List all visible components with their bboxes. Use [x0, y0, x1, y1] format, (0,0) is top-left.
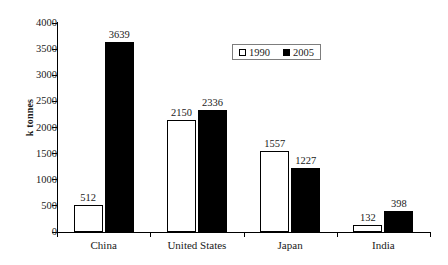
- bar-value-label: 1557: [252, 138, 297, 149]
- y-tick-label: 1500: [11, 149, 57, 160]
- chart-legend: 1990 2005: [232, 44, 321, 60]
- bar-united-states-1990: [167, 120, 196, 232]
- x-tick-mark: [57, 232, 58, 237]
- bar-chart: k tonnes 0500100015002000250030003500400…: [0, 0, 448, 265]
- y-tick-label: 2000: [11, 123, 57, 134]
- x-category-label-india: India: [337, 238, 430, 252]
- bar-value-label: 398: [376, 198, 421, 209]
- legend-entry-2005: 2005: [283, 47, 314, 58]
- y-tick-label: 500: [11, 201, 57, 212]
- bar-india-1990: [353, 225, 382, 232]
- x-category-label-china: China: [57, 238, 150, 252]
- bar-japan-2005: [291, 168, 320, 232]
- x-tick-mark: [150, 232, 151, 237]
- legend-entry-1990: 1990: [239, 47, 270, 58]
- y-tick-label: 0: [11, 227, 57, 238]
- legend-label-2005: 2005: [293, 47, 314, 58]
- bar-value-label: 3639: [97, 29, 142, 40]
- y-tick-label: 3000: [11, 70, 57, 81]
- bar-india-2005: [384, 211, 413, 232]
- x-category-label-japan: Japan: [244, 238, 337, 252]
- bar-china-1990: [74, 205, 103, 232]
- y-tick-label: 4000: [11, 18, 57, 29]
- legend-swatch-filled-square-icon: [283, 49, 290, 56]
- bar-value-label: 1227: [283, 155, 328, 166]
- x-tick-mark: [244, 232, 245, 237]
- bar-value-label: 2336: [190, 97, 235, 108]
- legend-label-1990: 1990: [249, 47, 270, 58]
- legend-swatch-open-square-icon: [239, 49, 246, 56]
- y-tick-label: 2500: [11, 96, 57, 107]
- y-tick-label: 1000: [11, 175, 57, 186]
- x-tick-mark: [430, 232, 431, 237]
- x-category-label-united-states: United States: [150, 238, 243, 252]
- y-tick-label: 3500: [11, 44, 57, 55]
- bar-china-2005: [105, 42, 134, 232]
- bar-united-states-2005: [198, 110, 227, 232]
- x-tick-mark: [337, 232, 338, 237]
